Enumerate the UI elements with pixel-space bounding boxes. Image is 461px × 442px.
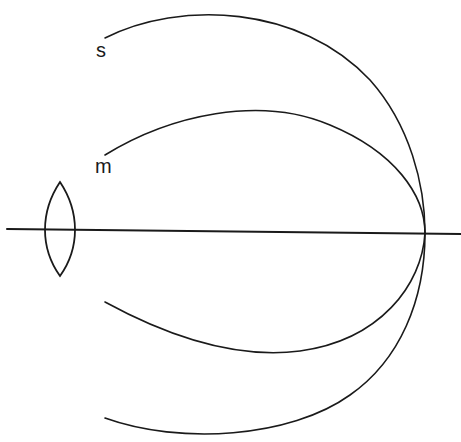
meridional-label: m (95, 156, 112, 176)
sagittal-surface-curve (105, 15, 425, 434)
astigmatism-diagram: s m (0, 0, 461, 442)
diagram-svg (0, 0, 461, 442)
sagittal-label: s (96, 40, 106, 60)
